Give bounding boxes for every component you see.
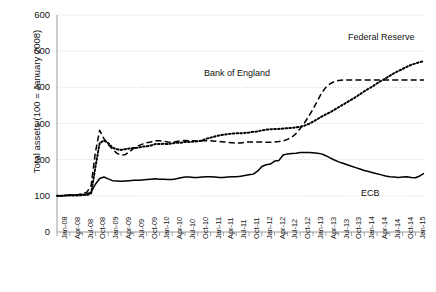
- x-tick-label: Jan-15: [418, 216, 427, 239]
- x-tick-label: Oct-13: [354, 217, 363, 239]
- x-tick-label: Jul-14: [393, 219, 402, 239]
- x-tick-label: Jan-09: [111, 216, 120, 239]
- x-tick-label: Jan-08: [60, 216, 69, 239]
- x-tick-label: Oct-14: [406, 217, 415, 239]
- x-tick-label: Jul-13: [342, 219, 351, 239]
- x-tick-label: Apr-13: [329, 217, 338, 239]
- series-line-bank-of-england: [57, 80, 424, 196]
- x-tick-label: Apr-10: [175, 217, 184, 239]
- x-tick-label: Jul-10: [188, 219, 197, 239]
- x-tick-label: Apr-12: [278, 217, 287, 239]
- x-tick-label: Apr-08: [73, 217, 82, 239]
- data-series-group: [57, 61, 424, 196]
- x-tick-label: Oct-10: [201, 217, 210, 239]
- x-tick-label: Jan-12: [265, 216, 274, 239]
- x-tick-label: Oct-11: [252, 217, 261, 239]
- chart-container: Total assets (100 = January 2008) 010020…: [0, 0, 436, 292]
- x-tick-label: Oct-12: [303, 217, 312, 239]
- x-tick-label: Apr-09: [124, 217, 133, 239]
- x-tick-label: Oct-09: [150, 217, 159, 239]
- x-tick-label: Apr-14: [380, 217, 389, 239]
- series-label-federal-reserve: Federal Reserve: [348, 32, 415, 42]
- series-label-ecb: ECB: [361, 188, 380, 198]
- x-tick-label: Jan-14: [367, 216, 376, 239]
- x-tick-label: Jul-11: [239, 219, 248, 239]
- series-label-bank-of-england: Bank of England: [204, 68, 270, 78]
- x-tick-label: Jan-13: [316, 216, 325, 239]
- x-tick-label: Jul-09: [137, 219, 146, 239]
- chart-plot-area: [0, 0, 436, 292]
- x-tick-label: Jan-10: [162, 216, 171, 239]
- x-tick-label: Apr-11: [226, 217, 235, 239]
- x-tick-label: Jul-12: [290, 219, 299, 239]
- x-tick-label: Jul-08: [86, 219, 95, 239]
- x-tick-label: Oct-08: [98, 217, 107, 239]
- x-tick-label: Jan-11: [214, 217, 223, 239]
- gridlines: [57, 15, 424, 196]
